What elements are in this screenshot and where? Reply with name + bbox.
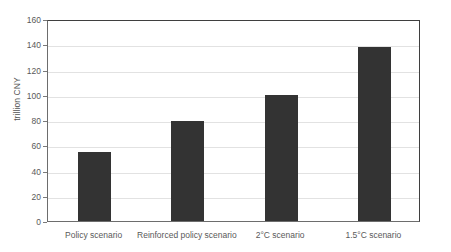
y-axis-tick-label: 20 xyxy=(1,192,41,202)
plot-area xyxy=(47,20,420,222)
y-axis-title: trillion CNY xyxy=(12,49,22,149)
bar-chart-figure: trillion CNY 020406080100120140160Policy… xyxy=(0,0,451,252)
x-axis-tick-label: Policy scenario xyxy=(65,230,122,240)
y-axis-tick-label: 40 xyxy=(1,167,41,177)
bar xyxy=(358,47,391,221)
bar xyxy=(171,121,204,221)
y-axis-tick-label: 160 xyxy=(1,15,41,25)
x-axis-tick-label: Reinforced policy scenario xyxy=(137,230,237,240)
x-axis-tick-label: 1.5°C scenario xyxy=(345,230,401,240)
bar xyxy=(78,152,111,221)
x-axis-tick-label: 2°C scenario xyxy=(256,230,305,240)
y-axis-tick-label: 0 xyxy=(1,217,41,227)
bar xyxy=(265,95,298,221)
y-axis-tick-mark xyxy=(43,222,47,223)
